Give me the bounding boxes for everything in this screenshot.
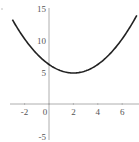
x-tick-label: 4	[96, 107, 101, 117]
x-tick-label: 2	[71, 107, 76, 117]
y-tick-label: 10	[37, 36, 47, 46]
x-tick-label: 0	[43, 107, 48, 117]
parabola-curve	[12, 15, 136, 73]
x-tick-label: 6	[120, 107, 125, 117]
x-tick-label: -2	[21, 107, 29, 117]
stray-mark	[1, 8, 2, 9]
axes	[10, 8, 139, 140]
parabola-chart: -2024615105-5	[0, 0, 139, 142]
y-tick-label: -5	[39, 132, 47, 142]
y-tick-label: 15	[37, 4, 47, 14]
y-tick-label: 5	[42, 68, 47, 78]
